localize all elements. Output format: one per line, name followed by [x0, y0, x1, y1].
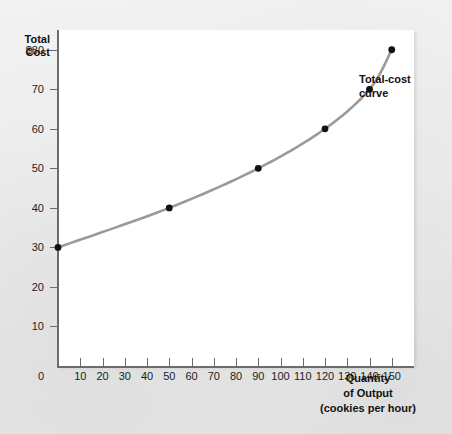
data-point-marker — [322, 125, 329, 132]
data-point-marker — [255, 165, 262, 172]
data-point-marker — [166, 204, 173, 211]
total-cost-curve — [0, 0, 452, 434]
data-point-marker — [55, 244, 62, 251]
curve-data-points — [55, 46, 396, 250]
x-axis-title: Quantityof Output(cookies per hour) — [292, 371, 444, 416]
total-cost-curve-figure: TotalCost 10203040506070$80 010203040506… — [0, 0, 452, 434]
curve-line — [58, 50, 392, 248]
series-label-total-cost-curve: Total-costcurve — [359, 72, 445, 100]
data-point-marker — [388, 46, 395, 53]
